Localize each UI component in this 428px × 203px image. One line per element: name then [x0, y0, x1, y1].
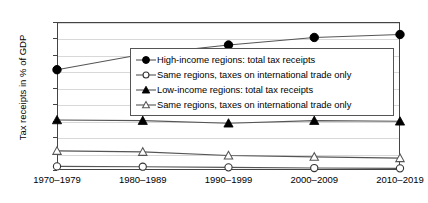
- legend-item[interactable]: Low-income regions: total tax receipts: [135, 82, 389, 97]
- filled-circle-icon: [135, 53, 157, 67]
- gridline: [58, 23, 399, 24]
- gridline: [58, 138, 399, 139]
- legend-item[interactable]: Same regions, taxes on international tra…: [135, 97, 389, 112]
- legend-label: Same regions, taxes on international tra…: [157, 98, 351, 112]
- gridline: [58, 122, 399, 123]
- gridline: [58, 155, 399, 156]
- legend: High-income regions: total tax receiptsS…: [130, 48, 394, 116]
- gridline: [58, 39, 399, 40]
- legend-label: Low-income regions: total tax receipts: [157, 83, 313, 97]
- x-axis-tick-label: 1990–1999: [187, 174, 271, 185]
- x-axis-tick-label: 2000–2009: [272, 174, 356, 185]
- y-axis-tick-mark: [53, 170, 57, 171]
- open-triangle-icon: [135, 98, 157, 112]
- legend-item[interactable]: High-income regions: total tax receipts: [135, 52, 389, 67]
- open-circle-icon: [135, 68, 157, 82]
- legend-label: High-income regions: total tax receipts: [157, 53, 315, 67]
- x-axis-tick-label: 2010–2019: [358, 174, 428, 185]
- y-axis-title: Tax receipts in % of GDP: [17, 8, 28, 168]
- legend-item[interactable]: Same regions, taxes on international tra…: [135, 67, 389, 82]
- x-axis-tick-label: 1970–1979: [15, 174, 99, 185]
- filled-triangle-icon: [135, 83, 157, 97]
- x-axis-tick-label: 1980–1989: [101, 174, 185, 185]
- legend-label: Same regions, taxes on international tra…: [157, 68, 351, 82]
